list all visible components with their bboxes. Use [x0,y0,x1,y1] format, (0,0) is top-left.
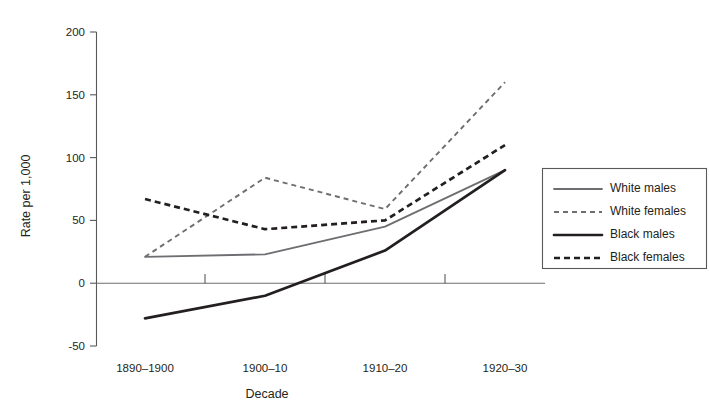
y-tick-label-minus50: -50 [68,340,85,352]
y-tick-label-0: 0 [79,277,85,289]
y-tick-label-200: 200 [66,26,85,38]
series-line-black-males [145,170,505,318]
chart-canvas: 200 150 100 50 0 -50 1890–1900 1900–10 1… [0,0,710,416]
legend-label-white-males: White males [610,181,676,195]
y-tick-label-50: 50 [72,214,85,226]
legend-label-black-females: Black females [610,250,685,264]
line-chart: 200 150 100 50 0 -50 1890–1900 1900–10 1… [0,0,710,416]
series-line-white-females [145,82,505,257]
y-tick-label-150: 150 [66,89,85,101]
x-tick-label-1920-30: 1920–30 [483,362,528,374]
x-axis-title: Decade [245,387,288,401]
series-line-black-females [145,145,505,229]
x-tick-label-1900-10: 1900–10 [243,362,288,374]
x-tick-label-1890-1900: 1890–1900 [116,362,174,374]
y-axis-title: Rate per 1,000 [19,155,33,238]
y-tick-label-100: 100 [66,152,85,164]
x-tick-label-1910-20: 1910–20 [363,362,408,374]
legend-label-black-males: Black males [610,227,675,241]
legend-label-white-females: White females [610,204,686,218]
legend: White males White females Black males Bl… [543,169,707,269]
